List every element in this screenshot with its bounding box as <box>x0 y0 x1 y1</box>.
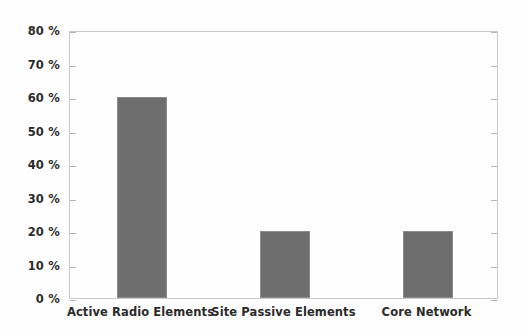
y-axis-tick-mark <box>491 166 497 167</box>
y-axis-tick-mark <box>491 233 497 234</box>
y-axis-tick-mark <box>491 267 497 268</box>
x-axis-category-label: Core Network <box>382 305 472 319</box>
y-axis-tick-label: 20 % <box>8 225 60 239</box>
bar-chart: 80 %70 %60 %50 %40 %30 %20 %10 %0 % Acti… <box>0 0 529 336</box>
y-axis-tick-label: 30 % <box>8 192 60 206</box>
y-axis-tick-label: 10 % <box>8 259 60 273</box>
y-axis-tick-mark <box>491 200 497 201</box>
y-axis-tick-mark <box>491 133 497 134</box>
y-axis-tick-mark <box>70 233 76 234</box>
y-axis-tick-mark <box>70 300 76 301</box>
y-axis-tick-mark <box>491 99 497 100</box>
bar <box>117 97 167 298</box>
y-axis-tick-mark <box>70 66 76 67</box>
y-axis-tick-label: 70 % <box>8 58 60 72</box>
x-axis-category-label: Site Passive Elements <box>211 305 355 319</box>
y-axis-tick-mark <box>70 166 76 167</box>
y-axis-tick-mark <box>70 200 76 201</box>
y-axis-tick-label: 0 % <box>8 292 60 306</box>
y-axis-tick-mark <box>70 32 76 33</box>
bar <box>260 231 310 298</box>
y-axis-tick-label: 80 % <box>8 24 60 38</box>
plot-area <box>69 31 498 299</box>
y-axis-tick-mark <box>491 32 497 33</box>
y-axis-tick-mark <box>70 267 76 268</box>
y-axis-tick-mark <box>491 300 497 301</box>
y-axis-tick-mark <box>70 99 76 100</box>
y-axis-tick-mark <box>70 133 76 134</box>
x-axis-category-label: Active Radio Elements <box>67 305 214 319</box>
y-axis-tick-label: 50 % <box>8 125 60 139</box>
y-axis-tick-label: 60 % <box>8 91 60 105</box>
y-axis-tick-label: 40 % <box>8 158 60 172</box>
y-axis-tick-mark <box>491 66 497 67</box>
bar <box>403 231 453 298</box>
